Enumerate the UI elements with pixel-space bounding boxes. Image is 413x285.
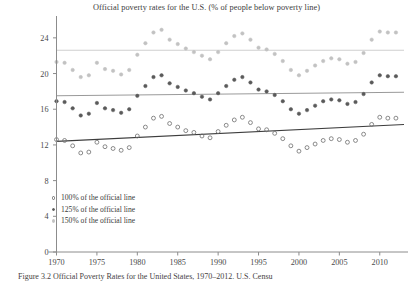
data-point <box>192 50 196 54</box>
data-point <box>200 95 204 99</box>
data-point <box>354 139 358 143</box>
x-tick-label: 1985 <box>170 258 186 267</box>
data-point <box>103 67 107 71</box>
trendline <box>57 124 405 141</box>
chart-svg: 0481216202419701975198019851990199520002… <box>0 0 413 268</box>
data-point <box>273 131 277 135</box>
data-point <box>103 107 107 111</box>
data-point <box>394 116 398 120</box>
data-point <box>321 99 325 103</box>
x-tick-label: 1975 <box>89 258 105 267</box>
series-light-filled-circle <box>55 28 398 79</box>
legend-item-100: 100% of the official line <box>50 192 135 204</box>
data-point <box>313 142 317 146</box>
data-point <box>184 47 188 51</box>
data-point <box>144 84 148 88</box>
data-point <box>265 90 269 94</box>
data-point <box>338 99 342 103</box>
data-point <box>386 74 390 78</box>
data-point <box>216 130 220 134</box>
data-point <box>362 92 366 96</box>
data-point <box>354 100 358 104</box>
data-point <box>103 145 107 149</box>
data-point <box>119 73 123 77</box>
data-point <box>346 102 350 106</box>
data-point <box>386 31 390 35</box>
data-point <box>305 69 309 73</box>
data-point <box>87 74 91 78</box>
data-point <box>111 147 115 151</box>
data-point <box>136 94 140 98</box>
x-tick-label: 2000 <box>291 258 307 267</box>
data-point <box>224 41 228 45</box>
data-point <box>273 93 277 97</box>
data-point <box>313 64 317 68</box>
y-tick-label: 0 <box>44 248 48 257</box>
data-point <box>378 30 382 33</box>
data-point <box>338 58 342 62</box>
data-point <box>95 101 99 105</box>
data-point <box>232 118 236 122</box>
data-point <box>192 91 196 95</box>
data-point <box>281 137 285 141</box>
data-point <box>216 91 220 95</box>
data-point <box>192 130 196 134</box>
data-point <box>233 34 237 38</box>
data-point <box>273 52 277 56</box>
data-point <box>208 98 212 102</box>
x-tick-label: 1970 <box>48 258 64 267</box>
data-point <box>71 68 75 72</box>
data-point <box>224 123 228 127</box>
data-point <box>257 88 261 92</box>
x-tick-label: 2005 <box>331 258 347 267</box>
data-point <box>378 115 382 119</box>
filled-circle-marker-icon <box>50 204 59 216</box>
data-point <box>370 38 374 42</box>
data-point <box>345 140 349 144</box>
data-point <box>152 31 156 35</box>
data-point <box>354 60 358 64</box>
data-point <box>249 121 253 125</box>
x-tick-label: 1980 <box>129 258 145 267</box>
data-point <box>289 144 293 148</box>
x-tick-label: 2010 <box>372 258 388 267</box>
data-point <box>297 74 301 78</box>
x-tick-label: 1990 <box>210 258 226 267</box>
data-point <box>127 68 131 72</box>
x-tick-label: 1995 <box>250 258 266 267</box>
data-point <box>241 32 245 36</box>
data-point <box>87 150 91 154</box>
data-point <box>224 84 228 88</box>
data-point <box>281 59 285 63</box>
data-point <box>95 61 99 64</box>
y-tick-label: 8 <box>44 177 48 186</box>
data-point <box>321 59 325 63</box>
data-point <box>184 129 188 133</box>
data-point <box>160 28 164 32</box>
data-point <box>330 98 334 102</box>
data-point <box>216 50 220 54</box>
poverty-rates-figure: Official poverty rates for the U.S. (% o… <box>0 0 413 285</box>
data-point <box>362 132 366 136</box>
data-point <box>168 38 172 42</box>
data-point <box>394 31 398 35</box>
data-point <box>297 149 301 153</box>
legend-label-100: 100% of the official line <box>61 192 135 204</box>
y-tick-label: 4 <box>44 212 48 221</box>
data-point <box>257 46 261 50</box>
data-point <box>289 68 293 72</box>
data-point <box>249 81 253 85</box>
open-circle-marker-icon <box>50 192 59 204</box>
series-open-circle <box>55 114 398 154</box>
data-point <box>321 139 325 143</box>
data-point <box>200 54 204 58</box>
data-point <box>79 75 83 79</box>
data-point <box>136 53 140 57</box>
y-tick-label: 24 <box>40 34 48 43</box>
data-point <box>152 75 156 79</box>
data-point <box>265 48 269 52</box>
data-point <box>329 137 333 141</box>
y-tick-label: 16 <box>40 105 48 114</box>
data-point <box>111 69 115 73</box>
data-point <box>208 58 212 62</box>
